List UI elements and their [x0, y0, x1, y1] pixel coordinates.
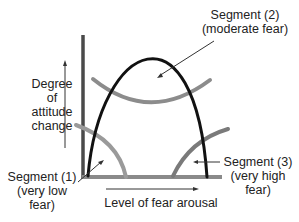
segment-2-desc: (moderate fear): [190, 22, 299, 36]
x-label-text: Level of fear arousal: [104, 196, 217, 210]
y-axis-label: Degree of attitude change: [22, 77, 82, 133]
segment-3-desc-2: fear): [220, 183, 296, 197]
segment-1-desc-2: fear): [6, 198, 78, 212]
y-label-line-2: of: [22, 91, 82, 105]
y-arrowhead-icon: [63, 60, 67, 66]
main-curve: [88, 59, 207, 177]
segment-3-arrowhead-icon: [193, 160, 198, 164]
segment-1-label: Segment (1) (very low fear): [6, 170, 78, 212]
segment-2-title: Segment (2): [190, 8, 299, 22]
segment-1-title: Segment (1): [6, 170, 78, 184]
segment-2-label: Segment (2) (moderate fear): [190, 8, 299, 36]
segment-3-label: Segment (3) (very high fear): [220, 155, 296, 197]
y-label-line-4: change: [22, 119, 82, 133]
y-label-line-1: Degree: [22, 77, 82, 91]
segment-3-title: Segment (3): [220, 155, 296, 169]
y-label-line-3: attitude: [22, 105, 82, 119]
segment-3-desc-1: (very high: [220, 169, 296, 183]
segment-1-desc-1: (very low: [6, 184, 78, 198]
segment-2-pointer: [159, 41, 214, 76]
x-arrowhead-icon: [193, 187, 199, 191]
x-axis-label: Level of fear arousal: [96, 196, 226, 210]
